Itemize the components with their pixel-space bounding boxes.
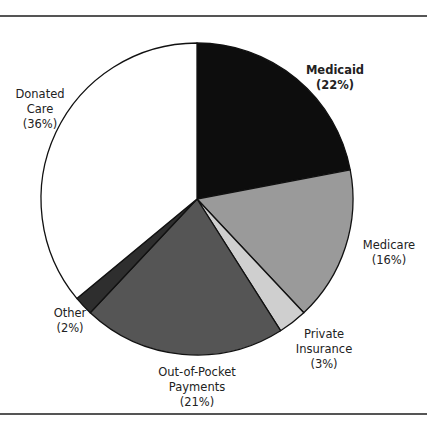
label-oop-pct: (21%) bbox=[147, 395, 247, 410]
label-medicaid-pct: (22%) bbox=[300, 78, 370, 93]
label-medicaid-name: Medicaid bbox=[300, 63, 370, 78]
label-private-name2: Insurance bbox=[284, 342, 364, 357]
label-other: Other (2%) bbox=[40, 306, 100, 336]
label-private-name1: Private bbox=[284, 327, 364, 342]
label-medicare-pct: (16%) bbox=[354, 253, 424, 268]
label-private-insurance: Private Insurance (3%) bbox=[284, 327, 364, 372]
label-medicaid: Medicaid (22%) bbox=[300, 63, 370, 93]
label-private-pct: (3%) bbox=[284, 357, 364, 372]
label-other-pct: (2%) bbox=[40, 321, 100, 336]
label-donated-name1: Donated bbox=[5, 87, 75, 102]
label-donated-name2: Care bbox=[5, 102, 75, 117]
label-medicare-name: Medicare bbox=[354, 238, 424, 253]
label-other-name: Other bbox=[40, 306, 100, 321]
label-medicare: Medicare (16%) bbox=[354, 238, 424, 268]
label-oop-name1: Out-of-Pocket bbox=[147, 365, 247, 380]
label-donated-care: Donated Care (36%) bbox=[5, 87, 75, 132]
label-out-of-pocket: Out-of-Pocket Payments (21%) bbox=[147, 365, 247, 410]
label-oop-name2: Payments bbox=[147, 380, 247, 395]
label-donated-pct: (36%) bbox=[5, 117, 75, 132]
